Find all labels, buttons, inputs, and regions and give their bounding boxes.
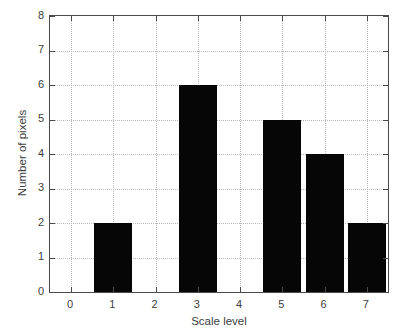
y-axis-tick-label: 1 [4, 251, 44, 262]
x-axis-tick [282, 287, 283, 292]
x-axis-tick [325, 287, 326, 292]
x-axis-tick [113, 16, 114, 21]
bar [263, 120, 301, 293]
x-axis-title: Scale level [49, 315, 389, 327]
x-axis-tick [156, 287, 157, 292]
x-axis-tick [367, 287, 368, 292]
y-axis-tick [50, 223, 55, 224]
x-axis-tick [198, 287, 199, 292]
bar [348, 223, 386, 292]
x-axis-tick [71, 16, 72, 21]
y-axis-tick [50, 258, 55, 259]
gridline-vertical [156, 16, 157, 292]
y-axis-tick [50, 154, 55, 155]
y-axis-title: Number of pixels [16, 83, 28, 223]
gridline-vertical [240, 16, 241, 292]
x-axis-tick [198, 16, 199, 21]
gridline-vertical [71, 16, 72, 292]
x-axis-tick [156, 16, 157, 21]
x-axis-tick [113, 287, 114, 292]
y-axis-tick-label: 7 [4, 44, 44, 55]
gridline-horizontal [50, 120, 388, 121]
x-axis-tick [282, 16, 283, 21]
y-axis-tick [50, 51, 55, 52]
gridline-horizontal [50, 85, 388, 86]
x-axis-tick-labels: 01234567 [49, 299, 389, 313]
x-axis-tick [240, 16, 241, 21]
y-axis-tick [50, 16, 55, 17]
y-axis-tick-label: 8 [4, 10, 44, 21]
y-axis-tick [50, 189, 55, 190]
y-axis-tick-label: 0 [4, 286, 44, 297]
y-axis-tick [383, 85, 388, 86]
y-axis-tick [383, 120, 388, 121]
x-axis-tick-label: 2 [140, 299, 170, 310]
bar [306, 154, 344, 292]
x-axis-tick-label: 5 [266, 299, 296, 310]
y-axis-tick [50, 85, 55, 86]
x-axis-tick-label: 4 [224, 299, 254, 310]
y-axis-tick [383, 258, 388, 259]
x-axis-tick-label: 6 [309, 299, 339, 310]
x-axis-tick-label: 7 [351, 299, 381, 310]
gridline-horizontal [50, 51, 388, 52]
y-axis-tick [383, 16, 388, 17]
y-axis-tick [50, 292, 55, 293]
plot-area [49, 15, 389, 293]
bar [94, 223, 132, 292]
y-axis-tick [383, 189, 388, 190]
x-axis-tick-label: 1 [97, 299, 127, 310]
x-axis-tick-label: 0 [55, 299, 85, 310]
y-axis-tick [383, 292, 388, 293]
x-axis-tick [240, 287, 241, 292]
x-axis-tick [71, 287, 72, 292]
histogram-figure: 012345678 01234567 Scale level Number of… [0, 0, 410, 336]
y-axis-tick [383, 51, 388, 52]
x-axis-tick-label: 3 [182, 299, 212, 310]
y-axis-tick [383, 223, 388, 224]
bar [179, 85, 217, 292]
x-axis-tick [325, 16, 326, 21]
x-axis-tick [367, 16, 368, 21]
y-axis-tick [383, 154, 388, 155]
y-axis-tick [50, 120, 55, 121]
